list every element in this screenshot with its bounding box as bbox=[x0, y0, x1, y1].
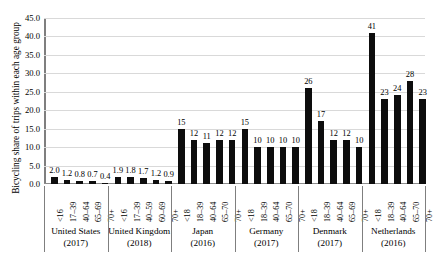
bar-value-label: 41 bbox=[361, 23, 383, 31]
group-separator bbox=[44, 186, 45, 252]
bar bbox=[343, 140, 350, 184]
bar bbox=[419, 99, 426, 184]
age-group-tick-label: 65–70 bbox=[413, 184, 421, 222]
age-group-tick-label: 65–69 bbox=[95, 184, 103, 222]
bar bbox=[292, 147, 299, 184]
age-group-tick-label: 40–64 bbox=[400, 184, 408, 222]
age-group-tick-label: 40–64 bbox=[337, 184, 345, 222]
bar bbox=[216, 140, 223, 184]
bar bbox=[394, 95, 401, 184]
y-axis-tick-label: 15.0 bbox=[10, 124, 40, 133]
age-group-tick-label: <16 bbox=[57, 184, 65, 222]
age-group-tick-label: 40–64 bbox=[210, 184, 218, 222]
bar bbox=[191, 140, 198, 184]
bar bbox=[381, 99, 388, 184]
bar bbox=[280, 147, 287, 184]
country-label: Japan bbox=[171, 226, 235, 237]
age-group-tick-label: 18–39 bbox=[261, 184, 269, 222]
country-group-labels: United States(2017)United Kingdom(2018)J… bbox=[44, 226, 425, 260]
bar-series: 2.01.20.80.70.41.91.81.71.20.91512111212… bbox=[44, 18, 425, 184]
age-group-tick-label: 40–64 bbox=[273, 184, 281, 222]
bar bbox=[229, 140, 236, 184]
bar-value-label: 0.9 bbox=[158, 171, 180, 179]
plot-area: 0.05.010.015.020.025.030.035.040.045.0 2… bbox=[44, 18, 425, 184]
country-year-label: (2018) bbox=[108, 238, 172, 249]
bicycling-share-bar-chart: Bicycling share of trips within each age… bbox=[0, 0, 433, 263]
age-group-tick-label: <18 bbox=[311, 184, 319, 222]
y-axis-tick-label: 0.0 bbox=[10, 180, 40, 189]
y-axis-tick-label: 10.0 bbox=[10, 143, 40, 152]
bar bbox=[305, 88, 312, 184]
bar bbox=[203, 143, 210, 184]
bar bbox=[369, 33, 376, 184]
bar-value-label: 15 bbox=[234, 119, 256, 127]
bar-value-label: 12 bbox=[221, 130, 243, 138]
age-group-tick-label: 65–69 bbox=[349, 184, 357, 222]
age-group-tick-label: 70+ bbox=[362, 184, 370, 222]
age-group-tick-label: 18–39 bbox=[324, 184, 332, 222]
bar-value-label: 17 bbox=[310, 111, 332, 119]
country-year-label: (2016) bbox=[171, 238, 235, 249]
y-axis-tick-label: 25.0 bbox=[10, 87, 40, 96]
age-group-tick-label: 18–39 bbox=[197, 184, 205, 222]
age-group-tick-label: <16 bbox=[121, 184, 129, 222]
bar bbox=[115, 177, 122, 184]
country-label: Germany bbox=[235, 226, 299, 237]
age-group-tick-label: 40–64 bbox=[83, 184, 91, 222]
bar bbox=[254, 147, 261, 184]
group-separator bbox=[171, 186, 172, 252]
age-group-tick-label: <18 bbox=[375, 184, 383, 222]
country-label: United States bbox=[44, 226, 108, 237]
bar bbox=[127, 177, 134, 184]
y-axis-tick-label: 35.0 bbox=[10, 51, 40, 60]
group-separator bbox=[425, 186, 426, 252]
country-label: United Kingdom bbox=[108, 226, 172, 237]
age-group-tick-label: 17–39 bbox=[70, 184, 78, 222]
bar bbox=[356, 147, 363, 184]
age-group-tick-label: 70+ bbox=[108, 184, 116, 222]
group-separator bbox=[298, 186, 299, 252]
age-group-tick-label: <18 bbox=[248, 184, 256, 222]
age-group-tick-label: 70+ bbox=[235, 184, 243, 222]
age-group-tick-label: 17–39 bbox=[134, 184, 142, 222]
age-group-tick-label: 70+ bbox=[172, 184, 180, 222]
age-group-tick-label: 40–59 bbox=[146, 184, 154, 222]
age-group-tick-label: 18–39 bbox=[388, 184, 396, 222]
group-separator bbox=[362, 186, 363, 252]
age-group-tick-label: 65–70 bbox=[222, 184, 230, 222]
y-axis-tick-label: 40.0 bbox=[10, 32, 40, 41]
country-year-label: (2016) bbox=[362, 238, 426, 249]
y-axis-tick-label: 20.0 bbox=[10, 106, 40, 115]
country-year-label: (2017) bbox=[298, 238, 362, 249]
y-axis-tick-label: 30.0 bbox=[10, 69, 40, 78]
country-label: Netherlands bbox=[362, 226, 426, 237]
age-group-tick-label: 70+ bbox=[299, 184, 307, 222]
age-group-tick-label: 70+ bbox=[426, 184, 433, 222]
country-label: Denmark bbox=[298, 226, 362, 237]
group-separator bbox=[235, 186, 236, 252]
age-group-tick-label: 65–70 bbox=[286, 184, 294, 222]
bar-value-label: 10 bbox=[348, 137, 370, 145]
age-group-tick-label: 60–69 bbox=[159, 184, 167, 222]
bar bbox=[267, 147, 274, 184]
bar-value-label: 10 bbox=[285, 137, 307, 145]
bar-value-label: 26 bbox=[297, 78, 319, 86]
bar-value-label: 28 bbox=[399, 71, 421, 79]
bar-value-label: 15 bbox=[170, 119, 192, 127]
country-year-label: (2017) bbox=[44, 238, 108, 249]
bar-value-label: 23 bbox=[412, 89, 433, 97]
age-group-tick-label: <18 bbox=[184, 184, 192, 222]
country-year-label: (2017) bbox=[235, 238, 299, 249]
group-separator bbox=[108, 186, 109, 252]
y-axis-tick-label: 45.0 bbox=[10, 14, 40, 23]
bar bbox=[330, 140, 337, 184]
y-axis-tick-label: 5.0 bbox=[10, 161, 40, 170]
bar-value-label: 24 bbox=[386, 85, 408, 93]
